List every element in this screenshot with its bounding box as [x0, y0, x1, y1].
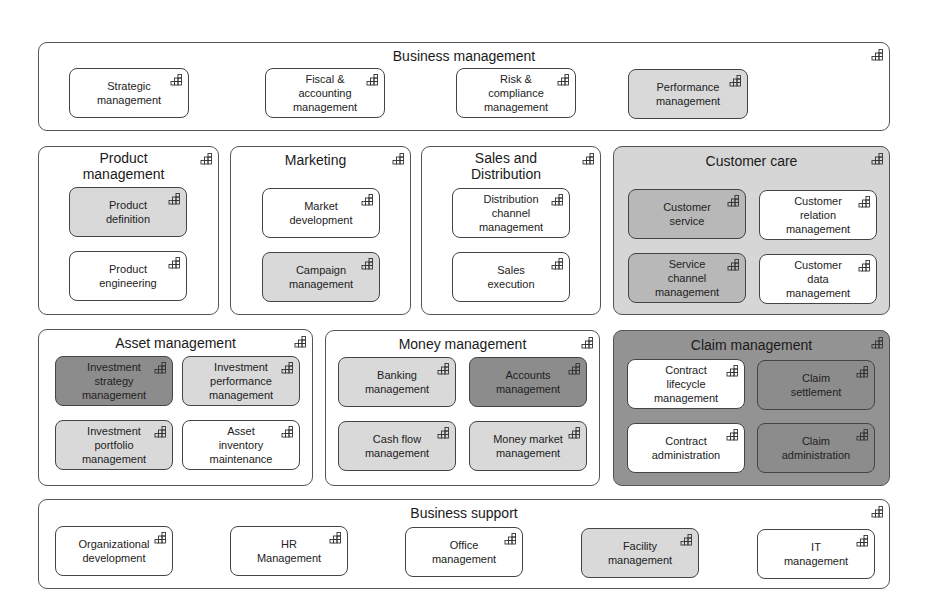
- capability-icon: [153, 532, 166, 544]
- capability-icon: [581, 153, 594, 165]
- capability-claim-administration[interactable]: Claim administration: [757, 423, 875, 473]
- capability-icon: [550, 194, 563, 206]
- capability-icon: [360, 194, 373, 206]
- group-title: Customer care: [614, 153, 889, 169]
- capability-label: Investment performance management: [209, 360, 273, 402]
- capability-icon: [153, 426, 166, 438]
- capability-label: Service channel management: [655, 257, 719, 299]
- capability-label: Sales execution: [487, 263, 534, 291]
- capability-banking-management[interactable]: Banking management: [338, 357, 456, 407]
- capability-sales-execution[interactable]: Sales execution: [452, 252, 570, 302]
- capability-icon: [728, 75, 741, 87]
- capability-customer-service[interactable]: Customer service: [628, 189, 746, 239]
- capability-label: Organizational development: [79, 537, 150, 565]
- capability-label: IT management: [784, 540, 848, 568]
- group-title: Product management: [39, 150, 208, 182]
- capability-label: Product definition: [106, 198, 150, 226]
- capability-icon: [726, 195, 739, 207]
- capability-asset-inventory-maintenance[interactable]: Asset inventory maintenance: [182, 420, 300, 470]
- capability-icon: [153, 362, 166, 374]
- capability-icon: [280, 362, 293, 374]
- capability-label: Accounts management: [496, 368, 560, 396]
- capability-contract-administration[interactable]: Contract administration: [627, 423, 745, 473]
- capability-strategic-management[interactable]: Strategic management: [69, 68, 189, 118]
- capability-claim-settlement[interactable]: Claim settlement: [757, 360, 875, 410]
- capability-icon: [556, 74, 569, 86]
- capability-label: Contract administration: [652, 434, 720, 462]
- capability-icon: [870, 153, 883, 165]
- capability-campaign-management[interactable]: Campaign management: [262, 252, 380, 302]
- capability-label: Cash flow management: [365, 432, 429, 460]
- capability-icon: [436, 427, 449, 439]
- group-title: Money management: [326, 336, 599, 352]
- capability-label: Facility management: [608, 539, 672, 567]
- capability-icon: [360, 258, 373, 270]
- capability-accounts-management[interactable]: Accounts management: [469, 357, 587, 407]
- capability-icon: [436, 363, 449, 375]
- capability-icon: [167, 193, 180, 205]
- capability-icon: [169, 74, 182, 86]
- capability-risk-compliance-management[interactable]: Risk & compliance management: [456, 68, 576, 118]
- capability-label: Fiscal & accounting management: [293, 72, 357, 114]
- capability-icon: [167, 257, 180, 269]
- capability-icon: [726, 259, 739, 271]
- capability-icon: [870, 49, 883, 61]
- capability-hr-management[interactable]: HR Management: [230, 526, 348, 576]
- capability-icon: [391, 153, 404, 165]
- capability-icon: [855, 366, 868, 378]
- capability-label: Customer relation management: [786, 194, 850, 236]
- capability-label: Claim administration: [782, 434, 850, 462]
- capability-facility-management[interactable]: Facility management: [581, 528, 699, 578]
- capability-distribution-channel-management[interactable]: Distribution channel management: [452, 188, 570, 238]
- group-title: Business support: [39, 505, 889, 521]
- capability-money-market-management[interactable]: Money market management: [469, 421, 587, 471]
- capability-icon: [870, 337, 883, 349]
- capability-icon: [293, 336, 306, 348]
- capability-label: Performance management: [656, 80, 720, 108]
- capability-cash-flow-management[interactable]: Cash flow management: [338, 421, 456, 471]
- capability-service-channel-management[interactable]: Service channel management: [628, 253, 746, 303]
- capability-investment-portfolio-management[interactable]: Investment portfolio management: [55, 420, 173, 470]
- capability-icon: [855, 535, 868, 547]
- capability-icon: [280, 426, 293, 438]
- capability-label: Investment strategy management: [82, 360, 146, 402]
- capability-icon: [725, 429, 738, 441]
- capability-investment-performance-management[interactable]: Investment performance management: [182, 356, 300, 406]
- capability-label: Strategic management: [97, 79, 161, 107]
- capability-icon: [567, 427, 580, 439]
- group-title: Asset management: [39, 335, 312, 351]
- capability-investment-strategy-management[interactable]: Investment strategy management: [55, 356, 173, 406]
- capability-office-management[interactable]: Office management: [405, 527, 523, 577]
- group-title: Claim management: [614, 337, 889, 353]
- group-title: Business management: [39, 48, 889, 64]
- group-title: Marketing: [231, 152, 400, 168]
- capability-icon: [199, 153, 212, 165]
- capability-it-management[interactable]: IT management: [757, 529, 875, 579]
- capability-icon: [855, 429, 868, 441]
- capability-icon: [679, 534, 692, 546]
- capability-icon: [870, 506, 883, 518]
- capability-icon: [857, 196, 870, 208]
- capability-product-definition[interactable]: Product definition: [69, 187, 187, 237]
- capability-label: Office management: [432, 538, 496, 566]
- capability-performance-management[interactable]: Performance management: [628, 69, 748, 119]
- capability-label: Claim settlement: [791, 371, 842, 399]
- capability-icon: [725, 365, 738, 377]
- capability-contract-lifecycle-management[interactable]: Contract lifecycle management: [627, 359, 745, 409]
- capability-icon: [567, 363, 580, 375]
- capability-label: Investment portfolio management: [82, 424, 146, 466]
- group-title: Sales and Distribution: [422, 150, 590, 182]
- capability-icon: [580, 337, 593, 349]
- capability-customer-data-management[interactable]: Customer data management: [759, 254, 877, 304]
- capability-label: Contract lifecycle management: [654, 363, 718, 405]
- capability-label: Risk & compliance management: [484, 72, 548, 114]
- capability-market-development[interactable]: Market development: [262, 188, 380, 238]
- capability-icon: [365, 74, 378, 86]
- capability-organizational-development[interactable]: Organizational development: [55, 526, 173, 576]
- capability-icon: [550, 258, 563, 270]
- capability-product-engineering[interactable]: Product engineering: [69, 251, 187, 301]
- capability-label: Asset inventory maintenance: [210, 424, 273, 466]
- capability-fiscal-accounting-management[interactable]: Fiscal & accounting management: [265, 68, 385, 118]
- capability-label: Money market management: [493, 432, 563, 460]
- capability-customer-relation-management[interactable]: Customer relation management: [759, 190, 877, 240]
